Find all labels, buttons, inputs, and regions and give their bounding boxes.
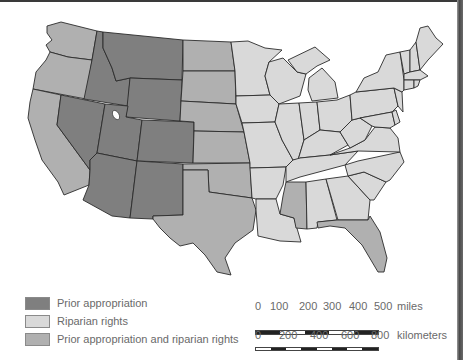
scale-unit: kilometers bbox=[397, 329, 447, 341]
scale-tick: 300 bbox=[323, 300, 341, 312]
legend-label: Riparian rights bbox=[57, 315, 128, 327]
state-maine bbox=[416, 26, 443, 70]
scale-tick: 100 bbox=[270, 300, 288, 312]
legend-item-mixed: Prior appropriation and riparian rights bbox=[25, 330, 239, 348]
state-arizona bbox=[83, 153, 137, 218]
scale-unit: miles bbox=[397, 300, 423, 312]
legend-item-riparian-rights: Riparian rights bbox=[25, 312, 239, 330]
scale-miles-labels: 0 100 200 300 400 500 miles bbox=[255, 300, 379, 314]
state-south-dakota bbox=[181, 71, 236, 104]
scale-tick: 600 bbox=[341, 329, 359, 341]
scale-tick: 200 bbox=[279, 329, 297, 341]
state-montana bbox=[103, 32, 183, 81]
swatch-riparian-rights bbox=[25, 315, 50, 328]
scale-tick: 0 bbox=[255, 329, 261, 341]
scale-km-labels: 0 200 400 600 800 kilometers bbox=[255, 329, 379, 343]
state-wyoming bbox=[126, 78, 182, 121]
scale-tick: 400 bbox=[349, 300, 367, 312]
legend-label: Prior appropriation bbox=[57, 297, 148, 309]
scale-km-bar bbox=[255, 347, 379, 351]
scale-tick: 400 bbox=[310, 329, 328, 341]
state-new-mexico bbox=[130, 161, 183, 219]
scale-tick: 800 bbox=[371, 329, 389, 341]
us-map bbox=[0, 0, 463, 290]
scale-tick: 500 bbox=[374, 300, 392, 312]
state-new-york bbox=[356, 52, 404, 92]
state-iowa bbox=[236, 95, 279, 123]
scale-tick: 200 bbox=[299, 300, 317, 312]
legend-label: Prior appropriation and riparian rights bbox=[57, 333, 239, 345]
swatch-mixed bbox=[25, 333, 50, 346]
state-kansas bbox=[193, 131, 250, 163]
state-rhode-island bbox=[414, 80, 420, 88]
legend-item-prior-appropriation: Prior appropriation bbox=[25, 294, 239, 312]
swatch-prior-appropriation bbox=[25, 297, 50, 310]
state-colorado bbox=[137, 120, 194, 163]
scale-bar: 0 100 200 300 400 500 miles 0 200 400 60… bbox=[255, 300, 379, 347]
scale-tick: 0 bbox=[255, 300, 261, 312]
legend: Prior appropriation Riparian rights Prio… bbox=[25, 294, 239, 348]
state-north-dakota bbox=[183, 40, 235, 71]
state-florida bbox=[317, 216, 387, 272]
state-arkansas bbox=[250, 167, 286, 199]
state-connecticut bbox=[404, 80, 414, 90]
